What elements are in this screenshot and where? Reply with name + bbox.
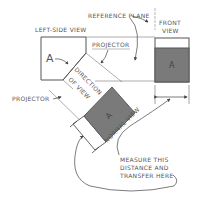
auxiliary-view-diagram: A A A DIRECTION OF VIEW NORMAL VIEW REFE… [0, 0, 197, 204]
measure-label-line1: MEASURE THIS [120, 156, 169, 163]
left-face-arrow [55, 59, 68, 64]
projector-left-label: PROJECTOR [12, 95, 50, 103]
diagram-svg: A A A DIRECTION OF VIEW NORMAL VIEW REFE… [0, 0, 197, 204]
projector-top-arrow [101, 50, 108, 63]
left-face-label: A [46, 52, 54, 65]
reference-plane-arrow-2 [130, 18, 138, 60]
front-view-label-line2: VIEW [162, 27, 179, 34]
measure-label-line3: TRANSFER HERE [119, 172, 173, 179]
left-side-view-label: LEFT-SIDE VIEW [35, 26, 86, 33]
projector-left-arrow [53, 97, 61, 99]
front-view-label-line1: FRONT [159, 19, 181, 26]
front-face-label: A [169, 61, 175, 70]
measure-label-line2: DISTANCE AND [120, 164, 169, 171]
projector-top-label: PROJECTOR [92, 41, 130, 49]
